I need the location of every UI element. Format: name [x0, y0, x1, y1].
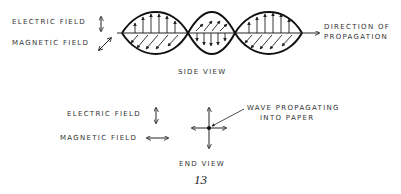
magnetic-field-vectors-lobe-3 — [245, 35, 292, 49]
page-number: 13 — [194, 172, 207, 188]
end-electric-field-label: ELECTRIC FIELD — [67, 110, 141, 118]
electric-field-vectors-lobe-1 — [135, 14, 175, 33]
end-magnetic-field-label: MAGNETIC FIELD — [60, 134, 137, 142]
end-view-caption: END VIEW — [179, 160, 225, 168]
legend-magnetic-field-label: MAGNETIC FIELD — [12, 39, 89, 47]
annotation-leader-arrow — [212, 109, 244, 126]
side-view-caption: SIDE VIEW — [178, 68, 226, 76]
legend-electric-field-label: ELECTRIC FIELD — [12, 18, 86, 26]
direction-label-line1: DIRECTION OF — [324, 23, 390, 31]
electric-field-vectors-lobe-2 — [197, 33, 225, 46]
magnetic-field-vectors-lobe-2 — [196, 21, 227, 31]
magnetic-field-legend-icon — [99, 38, 111, 50]
annotation-line2: INTO PAPER — [260, 114, 314, 122]
direction-label-line2: PROPAGATION — [324, 33, 388, 41]
end-view-field-cross — [192, 108, 226, 148]
magnetic-field-vectors-lobe-1 — [131, 35, 178, 49]
annotation-line1: WAVE PROPAGATING — [247, 104, 340, 112]
